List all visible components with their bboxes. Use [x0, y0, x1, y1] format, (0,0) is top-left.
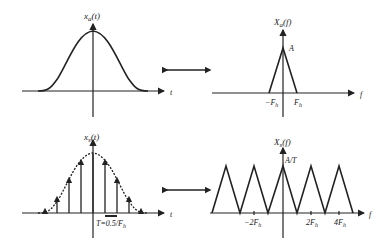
peak-label-A-over-T: A/T	[284, 156, 297, 165]
Xa-title: Xa(f)	[273, 17, 292, 29]
xa-title: xa(t)	[83, 11, 100, 23]
xs-title: xs(t)	[83, 132, 99, 144]
Xs-title: Xs(f)	[273, 137, 291, 149]
t-axis-label: t	[170, 88, 173, 97]
tick-neg-Fh: −Fh	[265, 98, 278, 108]
sampling-diagram: xa(t) t Xa(f) A −Fh Fh f	[0, 0, 387, 249]
tick-label-m2Fh: −2Fh	[244, 218, 261, 228]
t-axis-label: t	[170, 210, 173, 219]
panel-xs-freq: Xs(f) A/T −2Fh 2Fh 4Fh f	[210, 137, 373, 238]
panel-xs-time: xs(t) T=0.5/Fh t	[22, 132, 173, 238]
tick-pos-Fh: Fh	[293, 98, 302, 108]
panel-xa-freq: Xa(f) A −Fh Fh f	[212, 17, 364, 117]
sampling-period-label: T=0.5/Fh	[96, 219, 126, 229]
sample-stems	[45, 154, 141, 213]
f-axis-label: f	[360, 90, 364, 99]
tick-label-p4Fh: 4Fh	[334, 218, 346, 228]
peak-label-A: A	[288, 44, 294, 53]
panel-xa-time: xa(t) t	[22, 11, 173, 117]
f-axis-label: f	[369, 210, 373, 219]
tick-label-p2Fh: 2Fh	[306, 218, 318, 228]
